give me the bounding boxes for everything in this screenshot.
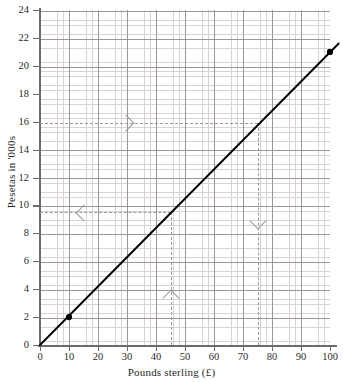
y-tick-2: [33, 317, 40, 318]
y-tick-18: [33, 94, 40, 95]
grid-major: [40, 10, 330, 345]
y-tick-label-4: 4: [3, 284, 29, 295]
x-tick-label-40: 40: [143, 352, 169, 363]
x-tick-label-100: 100: [317, 352, 343, 363]
conversion-graph: 24 22 20 18 16 14 12 10 8 6 4 2 0 0 10 2…: [0, 0, 343, 382]
x-tick-label-90: 90: [288, 352, 314, 363]
x-axis-line: [38, 345, 337, 347]
x-tick-label-30: 30: [114, 352, 140, 363]
y-tick-label-18: 18: [3, 89, 29, 100]
y-tick-label-2: 2: [3, 312, 29, 323]
x-tick-label-0: 0: [27, 352, 53, 363]
x-tick-label-80: 80: [259, 352, 285, 363]
y-tick-12: [33, 178, 40, 179]
guide-vertical-75-pounds: [258, 123, 259, 345]
y-tick-label-20: 20: [3, 61, 29, 72]
y-axis-title: Pesetas in '000s: [5, 107, 17, 237]
guide-horizontal-9500-pesetas: [40, 212, 171, 213]
y-tick-8: [33, 233, 40, 234]
y-tick-10: [33, 205, 40, 206]
y-tick-14: [33, 150, 40, 151]
y-tick-4: [33, 289, 40, 290]
x-tick-label-70: 70: [230, 352, 256, 363]
y-tick-0: [33, 345, 40, 346]
y-tick-label-24: 24: [3, 5, 29, 16]
y-tick-label-6: 6: [3, 256, 29, 267]
guide-horizontal-16000-pesetas: [40, 123, 258, 124]
y-tick-6: [33, 261, 40, 262]
y-tick-label-0: 0: [3, 340, 29, 351]
x-tick-label-10: 10: [56, 352, 82, 363]
y-tick-20: [33, 66, 40, 67]
x-tick-label-20: 20: [85, 352, 111, 363]
y-tick-24: [33, 10, 40, 11]
y-tick-label-22: 22: [3, 33, 29, 44]
x-tick-label-50: 50: [172, 352, 198, 363]
guide-vertical-45-pounds: [171, 212, 172, 345]
plot-area: [40, 10, 330, 345]
y-tick-22: [33, 38, 40, 39]
x-tick-label-60: 60: [201, 352, 227, 363]
x-axis-title: Pounds sterling (£): [0, 366, 343, 378]
y-tick-16: [33, 122, 40, 123]
